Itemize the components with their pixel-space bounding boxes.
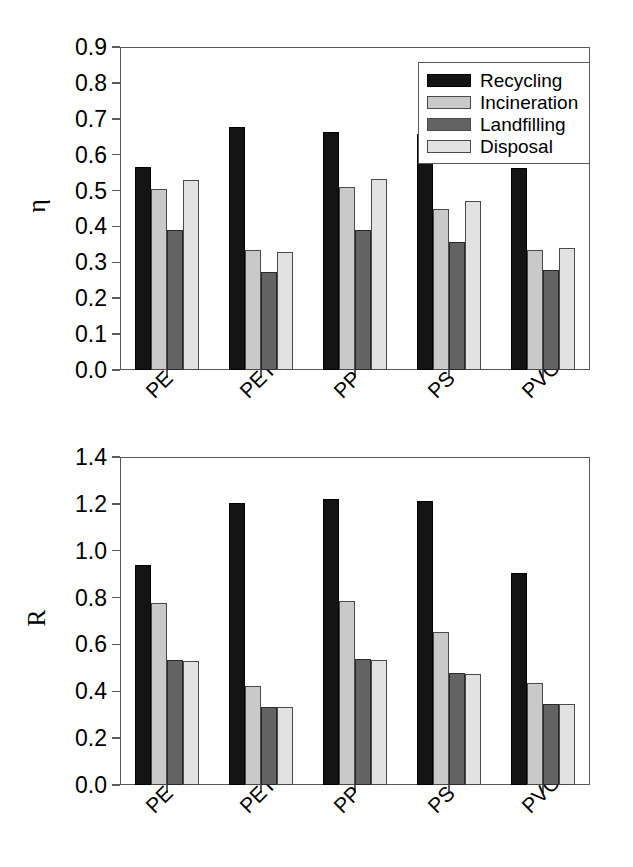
- bar-pet-landfilling: [261, 272, 277, 370]
- y-tick-mark: [112, 644, 120, 646]
- bar-pe-landfilling: [167, 230, 183, 370]
- bar-pp-disposal: [371, 179, 387, 370]
- figure-container: η 0.00.10.20.30.40.50.60.70.80.9 PEPETPP…: [0, 0, 633, 867]
- y-tick-label: 0.8: [35, 584, 107, 611]
- legend-label: Incineration: [480, 93, 578, 112]
- x-tick-label-pp: PP: [329, 781, 366, 818]
- y-tick-label: 0.3: [35, 249, 107, 276]
- bar-ps-disposal: [465, 674, 481, 785]
- bar-pp-disposal: [371, 660, 387, 785]
- legend-swatch-disposal: [427, 140, 471, 153]
- legend: RecyclingIncinerationLandfillingDisposal: [418, 62, 590, 164]
- y-tick-label: 0.4: [35, 213, 107, 240]
- bar-pet-recycling: [229, 127, 245, 370]
- bar-pvc-incineration: [527, 250, 543, 370]
- bar-pe-recycling: [135, 167, 151, 370]
- bar-ps-incineration: [433, 632, 449, 785]
- bar-pp-incineration: [339, 601, 355, 785]
- bar-pvc-landfilling: [543, 270, 559, 370]
- bar-pe-incineration: [151, 603, 167, 785]
- y-tick-mark: [112, 550, 120, 552]
- bar-ps-disposal: [465, 201, 481, 370]
- y-tick-label: 0.5: [35, 177, 107, 204]
- y-tick-mark: [112, 46, 120, 48]
- y-tick-label: 0.8: [35, 69, 107, 96]
- legend-item-recycling: Recycling: [427, 69, 579, 91]
- legend-item-incineration: Incineration: [427, 91, 579, 113]
- y-tick-mark: [112, 154, 120, 156]
- y-tick-mark: [112, 190, 120, 192]
- bar-pp-recycling: [323, 499, 339, 785]
- bar-pvc-recycling: [511, 573, 527, 785]
- y-tick-mark: [112, 262, 120, 264]
- y-tick-label: 0.6: [35, 631, 107, 658]
- y-tick-label: 0.0: [35, 772, 107, 799]
- y-tick-mark: [112, 597, 120, 599]
- y-tick-label: 1.4: [35, 444, 107, 471]
- legend-swatch-incineration: [427, 96, 471, 109]
- legend-item-disposal: Disposal: [427, 135, 579, 157]
- y-tick-label: 1.2: [35, 490, 107, 517]
- bar-pp-incineration: [339, 187, 355, 370]
- y-tick-label: 0.1: [35, 321, 107, 348]
- legend-swatch-landfilling: [427, 118, 471, 131]
- bar-ps-incineration: [433, 209, 449, 370]
- y-tick-label: 0.6: [35, 141, 107, 168]
- y-tick-mark: [112, 784, 120, 786]
- legend-label: Recycling: [480, 71, 562, 90]
- y-tick-label: 0.0: [35, 357, 107, 384]
- bar-pp-landfilling: [355, 230, 371, 370]
- bar-pet-recycling: [229, 503, 245, 785]
- y-tick-mark: [112, 118, 120, 120]
- bar-pet-incineration: [245, 250, 261, 370]
- bar-pe-disposal: [183, 661, 199, 785]
- bar-pet-landfilling: [261, 707, 277, 785]
- y-tick-mark: [112, 297, 120, 299]
- y-tick-label: 0.7: [35, 105, 107, 132]
- y-tick-mark: [112, 333, 120, 335]
- eta-panel: η 0.00.10.20.30.40.50.60.70.80.9 PEPETPP…: [0, 0, 633, 440]
- bar-pe-incineration: [151, 189, 167, 370]
- bar-pvc-landfilling: [543, 704, 559, 785]
- bar-ps-landfilling: [449, 673, 465, 785]
- bar-ps-recycling: [417, 134, 433, 370]
- bar-pet-disposal: [277, 707, 293, 785]
- y-tick-label: 0.4: [35, 678, 107, 705]
- x-tick-label-ps: PS: [423, 781, 460, 818]
- bar-pet-incineration: [245, 686, 261, 785]
- bar-pet-disposal: [277, 252, 293, 370]
- legend-label: Landfilling: [480, 115, 566, 134]
- y-tick-mark: [112, 456, 120, 458]
- bar-ps-landfilling: [449, 242, 465, 370]
- y-tick-label: 0.9: [35, 34, 107, 61]
- bar-pe-landfilling: [167, 660, 183, 785]
- y-tick-mark: [112, 226, 120, 228]
- x-tick-label-pe: PE: [141, 366, 178, 403]
- y-tick-label: 0.2: [35, 285, 107, 312]
- bar-pvc-incineration: [527, 683, 543, 785]
- y-tick-label: 0.2: [35, 725, 107, 752]
- y-tick-mark: [112, 503, 120, 505]
- bar-ps-recycling: [417, 501, 433, 785]
- x-tick-label-pp: PP: [329, 366, 366, 403]
- bar-pp-recycling: [323, 132, 339, 370]
- r-panel: R 0.00.20.40.60.81.01.21.4 PEPETPPPSPVC: [0, 440, 633, 867]
- bar-pvc-recycling: [511, 168, 527, 370]
- x-tick-label-pe: PE: [141, 781, 178, 818]
- x-tick-label-ps: PS: [423, 366, 460, 403]
- bar-pe-recycling: [135, 565, 151, 785]
- bar-pvc-disposal: [559, 248, 575, 370]
- y-tick-mark: [112, 82, 120, 84]
- bar-pe-disposal: [183, 180, 199, 370]
- y-tick-mark: [112, 369, 120, 371]
- y-tick-mark: [112, 737, 120, 739]
- legend-item-landfilling: Landfilling: [427, 113, 579, 135]
- bar-pvc-disposal: [559, 704, 575, 785]
- y-tick-label: 1.0: [35, 537, 107, 564]
- bar-pp-landfilling: [355, 659, 371, 785]
- legend-swatch-recycling: [427, 74, 471, 87]
- legend-label: Disposal: [480, 137, 553, 156]
- y-tick-mark: [112, 691, 120, 693]
